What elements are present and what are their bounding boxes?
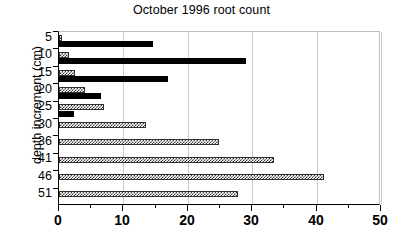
- y-tick-5: [53, 31, 58, 32]
- plot-area: [58, 31, 380, 205]
- chart-title: October 1996 root count: [0, 3, 403, 17]
- bar-solid-5: [59, 41, 153, 47]
- bar-checkered-20: [59, 87, 85, 93]
- x-tick-10: [122, 205, 123, 211]
- y-tick-label-30: 30: [18, 118, 52, 131]
- x-tick-0: [58, 205, 59, 211]
- y-tick-label-36: 36: [18, 135, 52, 148]
- bar-checkered-51: [59, 191, 238, 197]
- y-tick-label-5: 5: [18, 31, 52, 44]
- x-tick-label-10: 10: [102, 212, 142, 228]
- y-tick-label-41: 41: [18, 152, 52, 165]
- bar-group: [59, 119, 379, 136]
- bar-checkered-41: [59, 157, 274, 163]
- bar-solid-10: [59, 58, 246, 64]
- y-tick-label-20: 20: [18, 83, 52, 96]
- y-tick-36: [53, 135, 58, 136]
- bar-group: [59, 84, 379, 101]
- bar-checkered-5: [59, 35, 62, 41]
- x-tick-label-30: 30: [231, 212, 271, 228]
- y-axis-tick-labels: 5101520253036414651: [14, 0, 52, 234]
- bar-checkered-25: [59, 104, 104, 110]
- y-tick-10: [53, 48, 58, 49]
- y-tick-label-10: 10: [18, 48, 52, 61]
- bar-group: [59, 171, 379, 188]
- bar-checkered-36: [59, 139, 219, 145]
- gridline-50: [381, 32, 382, 204]
- bar-checkered-46: [59, 174, 324, 180]
- x-tick-label-50: 50: [360, 212, 400, 228]
- bar-group: [59, 102, 379, 119]
- x-tick-40: [316, 205, 317, 211]
- x-tick-20: [187, 205, 188, 211]
- bar-solid-20: [59, 93, 101, 99]
- bar-group: [59, 189, 379, 206]
- y-tick-label-51: 51: [18, 187, 52, 200]
- y-tick-20: [53, 83, 58, 84]
- root-count-chart: October 1996 root count depth increment …: [0, 0, 403, 234]
- x-tick-label-40: 40: [296, 212, 336, 228]
- bar-solid-25: [59, 111, 74, 117]
- y-tick-41: [53, 153, 58, 154]
- x-minor-tick-5: [90, 205, 91, 208]
- y-tick-15: [53, 66, 58, 67]
- x-minor-tick-35: [283, 205, 284, 208]
- y-tick-label-15: 15: [18, 66, 52, 79]
- bar-group: [59, 49, 379, 66]
- bar-group: [59, 32, 379, 49]
- y-tick-46: [53, 170, 58, 171]
- bar-solid-15: [59, 76, 168, 82]
- y-tick-51: [53, 188, 58, 189]
- y-tick-30: [53, 118, 58, 119]
- bar-group: [59, 67, 379, 84]
- x-minor-tick-15: [155, 205, 156, 208]
- y-tick-label-46: 46: [18, 170, 52, 183]
- bar-group: [59, 136, 379, 153]
- bar-checkered-30: [59, 122, 146, 128]
- x-minor-tick-45: [348, 205, 349, 208]
- bar-group: [59, 154, 379, 171]
- x-tick-label-0: 0: [38, 212, 78, 228]
- x-minor-tick-25: [219, 205, 220, 208]
- x-tick-30: [251, 205, 252, 211]
- x-tick-50: [380, 205, 381, 211]
- x-tick-label-20: 20: [167, 212, 207, 228]
- bar-checkered-10: [59, 52, 69, 58]
- y-tick-25: [53, 101, 58, 102]
- bar-checkered-15: [59, 70, 75, 76]
- y-tick-label-25: 25: [18, 100, 52, 113]
